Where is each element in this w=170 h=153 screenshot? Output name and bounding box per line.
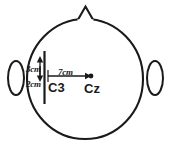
measurement-label-7cm: 7cm: [58, 68, 73, 77]
nose-triangle-icon: [78, 7, 94, 21]
right-ear-icon: [147, 61, 163, 95]
figure-canvas: 3cm 2cm 7cm C3 Cz: [0, 0, 170, 153]
cz-electrode-dot: [89, 74, 94, 79]
electrode-label-c3: C3: [48, 81, 65, 94]
measurement-label-2cm: 2cm: [26, 80, 41, 89]
electrode-label-cz: Cz: [84, 82, 100, 95]
left-ear-icon: [8, 61, 24, 95]
head-diagram: [0, 0, 170, 153]
measurement-label-3cm: 3cm: [26, 65, 41, 74]
